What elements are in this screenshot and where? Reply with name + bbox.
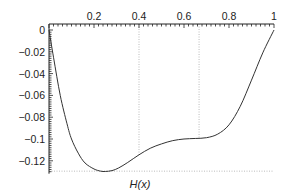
y-tick-label: −0.02 [18, 46, 45, 58]
data-series-curve [49, 30, 274, 172]
x-tick-label: 0.4 [132, 10, 147, 22]
reference-lines [49, 24, 274, 171]
y-tick-label: −0.04 [18, 68, 45, 80]
y-tick-label: −0.08 [18, 111, 45, 123]
x-tick-label: 0.2 [87, 10, 102, 22]
x-tick-label: 1 [271, 10, 277, 22]
x-axis-title: H(x) [130, 178, 151, 190]
y-tick-label: −0.06 [18, 89, 45, 101]
y-tick-label: −0.12 [18, 155, 45, 167]
x-tick-label: 0.8 [222, 10, 237, 22]
line-chart: 0.20.40.60.810−0.02−0.04−0.06−0.08−0.1−0… [0, 0, 288, 195]
y-tick-label: 0 [39, 24, 45, 36]
x-tick-label: 0.6 [177, 10, 192, 22]
y-tick-label: −0.1 [24, 133, 45, 145]
